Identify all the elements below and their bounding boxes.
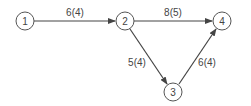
node-1: 1 [16,12,34,30]
edge-2-4: 8(5) [134,7,212,21]
edge-1-2: 6(4) [34,7,115,21]
network-diagram: 6(4) 8(5) 5(4) 6(4) 1 2 3 4 [0,0,251,106]
edge-3-4: 6(4) [179,29,216,84]
edge-label-1-2: 6(4) [66,7,84,18]
node-label-3: 3 [170,87,176,98]
node-4: 4 [213,12,231,30]
node-2: 2 [116,12,134,30]
node-label-2: 2 [122,16,128,27]
node-3: 3 [164,83,182,101]
node-label-1: 1 [22,16,28,27]
node-label-4: 4 [219,16,225,27]
edge-label-3-4: 6(4) [198,57,216,68]
edge-2-3: 5(4) [128,29,167,84]
edge-label-2-3: 5(4) [128,57,146,68]
edge-label-2-4: 8(5) [164,7,182,18]
